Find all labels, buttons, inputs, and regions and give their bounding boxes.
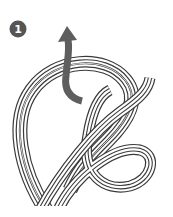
step-badge: 1 bbox=[10, 21, 27, 38]
knot-diagram: 1 bbox=[0, 0, 173, 217]
bottom-fade bbox=[0, 206, 173, 217]
knot-illustration: 1 bbox=[0, 0, 173, 217]
step-number: 1 bbox=[14, 23, 22, 36]
